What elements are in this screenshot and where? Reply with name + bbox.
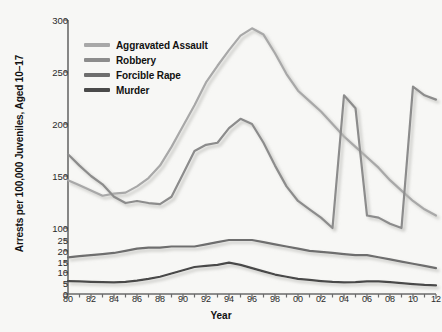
y-tick-label: 5 <box>34 278 68 289</box>
legend-color-swatch <box>84 43 110 47</box>
legend-item: Aggravated Assault <box>84 39 208 51</box>
x-tick-label: 88 <box>155 294 165 304</box>
x-axis-title: Year <box>0 310 442 321</box>
x-tick-label: 82 <box>86 294 96 304</box>
legend-label: Murder <box>116 85 149 96</box>
y-tick-label: 250 <box>34 67 68 78</box>
x-tick-label: 84 <box>109 294 119 304</box>
legend-label: Robbery <box>116 55 156 66</box>
x-tick-label: 10 <box>408 294 418 304</box>
x-tick-label: 98 <box>270 294 280 304</box>
legend-label: Aggravated Assault <box>116 40 208 51</box>
y-tick-label: 10 <box>34 267 68 278</box>
y-tick-label: 150 <box>34 171 68 182</box>
x-tick-label: 92 <box>201 294 211 304</box>
x-tick-label: 96 <box>247 294 257 304</box>
legend-color-swatch <box>84 73 110 77</box>
x-tick-label: 80 <box>63 294 73 304</box>
x-axis-tick-labels: 8082848688909294969800020406081012 <box>0 294 442 310</box>
x-tick-label: 86 <box>132 294 142 304</box>
x-tick-label: 02 <box>316 294 326 304</box>
legend-label: Forcible Rape <box>116 70 181 81</box>
legend-color-swatch <box>84 58 110 62</box>
legend-item: Murder <box>84 84 208 96</box>
y-tick-label: 25 <box>34 235 68 246</box>
chart-container: 3002502001501002520151050 80828486889092… <box>0 0 442 332</box>
y-tick-label: 100 <box>34 223 68 234</box>
y-tick-label: 20 <box>34 245 68 256</box>
y-axis-title: Arrests per 100,000 Juveniles, Aged 10–1… <box>14 29 25 279</box>
legend-item: Forcible Rape <box>84 69 208 81</box>
x-tick-label: 94 <box>224 294 234 304</box>
x-tick-label: 00 <box>293 294 303 304</box>
y-tick-label: 200 <box>34 119 68 130</box>
x-tick-label: 04 <box>339 294 349 304</box>
chart-legend: Aggravated AssaultRobberyForcible RapeMu… <box>84 39 208 96</box>
y-axis-tick-labels: 3002502001501002520151050 <box>34 0 68 332</box>
x-tick-label: 06 <box>362 294 372 304</box>
y-tick-label: 300 <box>34 15 68 26</box>
legend-item: Robbery <box>84 54 208 66</box>
x-tick-label: 90 <box>178 294 188 304</box>
x-tick-label: 08 <box>385 294 395 304</box>
x-tick-label: 12 <box>431 294 441 304</box>
legend-color-swatch <box>84 88 110 92</box>
y-tick-label: 15 <box>34 256 68 267</box>
